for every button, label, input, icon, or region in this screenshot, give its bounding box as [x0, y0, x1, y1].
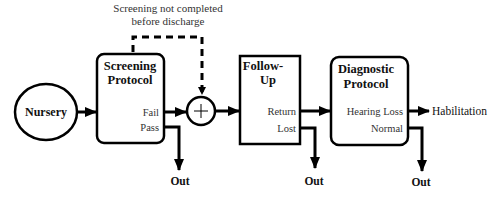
normal-out-label: Out	[411, 176, 430, 188]
pass-out-label: Out	[170, 175, 189, 187]
diagnostic-title-line2: Protocol	[344, 77, 389, 91]
diagnostic-title-line1: Diagnostic	[338, 62, 395, 76]
summing-junction	[187, 97, 215, 125]
normal-to-out-arrow	[408, 128, 422, 171]
diagnostic-hearing-loss-label: Hearing Loss	[347, 106, 403, 117]
nursery-label: Nursery	[25, 105, 67, 119]
hearing-screening-flow-diagram: Screening not completed before discharge…	[0, 0, 491, 198]
lost-out-label: Out	[304, 175, 323, 187]
follow-up-node: Follow- Up Return Lost	[240, 56, 300, 144]
followup-title-line2: Up	[260, 73, 276, 87]
nursery-node: Nursery	[15, 84, 77, 140]
followup-lost-label: Lost	[277, 123, 296, 134]
diagnostic-protocol-node: Diagnostic Protocol Hearing Loss Normal	[331, 57, 408, 145]
annotation-line1: Screening not completed	[113, 2, 223, 14]
followup-title-line1: Follow-	[243, 59, 283, 73]
annotation-line2: before discharge	[132, 15, 205, 27]
screening-pass-label: Pass	[140, 122, 159, 133]
followup-return-label: Return	[267, 106, 296, 117]
screening-fail-label: Fail	[143, 107, 159, 118]
screening-protocol-node: Screening Protocol Fail Pass	[97, 54, 164, 143]
pass-to-out-arrow	[164, 127, 179, 170]
habilitation-label: Habilitation	[432, 105, 487, 117]
lost-to-out-arrow	[300, 128, 315, 168]
diagnostic-normal-label: Normal	[371, 123, 403, 134]
screening-title-line1: Screening	[104, 59, 157, 73]
screening-title-line2: Protocol	[108, 73, 153, 87]
